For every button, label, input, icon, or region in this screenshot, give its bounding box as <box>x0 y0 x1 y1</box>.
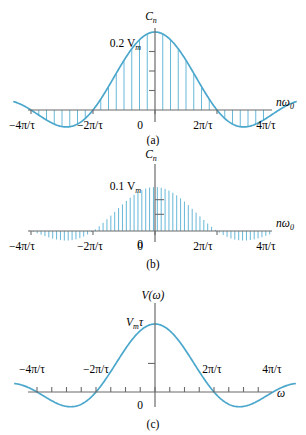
panel-b-peak-label: 0.1 Vm <box>110 180 141 195</box>
panel-c-xtick-label-2: 2π/τ <box>202 363 222 375</box>
panel-b-stems <box>29 187 269 240</box>
panel-b-x-axis-label: nω0 <box>276 217 294 232</box>
panel-a-xtick-label-1: −2π/τ <box>77 119 103 131</box>
panel-b-caption: (b) <box>146 258 160 271</box>
panel-c-peak-label: Vmτ <box>126 316 144 331</box>
panel-a: Cn 0.2 Vm nω0 −4π/τ −2π/τ 0 2π/τ 4π/τ (a… <box>0 0 306 146</box>
panel-c: V(ω) Vmτ ω 0 −4π/τ −2π/τ 2π/τ 4π/τ (c) <box>0 285 306 435</box>
panel-c-xtick-label-0: −4π/τ <box>19 363 45 375</box>
panel-a-y-axis-label: Cn <box>145 10 157 25</box>
panel-b-y-axis-label: Cn <box>145 148 157 163</box>
panel-b-y-ticks <box>155 200 164 215</box>
panel-c-origin-label: 0 <box>137 399 143 411</box>
panel-b-xtick-label-1: −2π/τ <box>77 240 103 252</box>
panel-b-xtick-label-0: −4π/τ <box>9 240 35 252</box>
figure-container: Cn 0.2 Vm nω0 −4π/τ −2π/τ 0 2π/τ 4π/τ (a… <box>0 0 306 435</box>
panel-c-x-axis-label: ω <box>277 387 285 399</box>
panel-a-xtick-label-4: 4π/τ <box>256 119 276 131</box>
panel-c-xtick-label-3: 4π/τ <box>262 363 282 375</box>
panel-b-xtick-label-4: 4π/τ <box>256 240 276 252</box>
panel-c-xtick-label-1: −2π/τ <box>83 363 109 375</box>
panel-a-xtick-label-3: 2π/τ <box>193 119 213 131</box>
panel-a-x-axis-label: nω0 <box>276 96 294 111</box>
panel-b-x-ticks <box>31 231 217 235</box>
panel-a-xtick-label-0: −4π/τ <box>9 119 35 131</box>
panel-a-y-ticks <box>149 52 155 91</box>
panel-a-xtick-label-2: 0 <box>137 119 143 131</box>
panel-a-stems <box>31 34 264 127</box>
panel-c-caption: (c) <box>147 418 160 431</box>
panel-b-xtick-label-3: 2π/τ <box>193 240 213 252</box>
panel-a-peak-label: 0.2 Vm <box>110 37 141 52</box>
panel-c-x-ticks <box>37 387 258 392</box>
panel-c-y-axis-label: V(ω) <box>142 289 165 302</box>
panel-a-caption: (a) <box>147 134 160 146</box>
panel-b: Cn 0.1 Vm nω0 −4π/τ −2π/τ 0 2π/τ 4π/τ (b… <box>0 146 306 285</box>
panel-b-origin-label: 0 <box>137 238 143 250</box>
